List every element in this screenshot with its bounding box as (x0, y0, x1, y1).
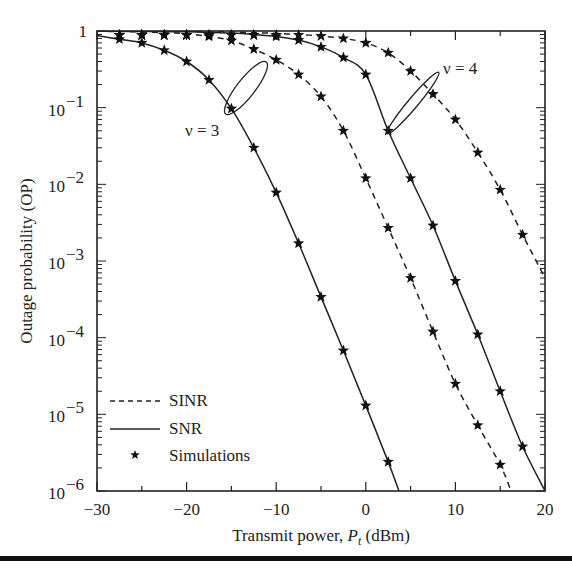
star-marker-icon (248, 43, 259, 54)
star-marker-icon (450, 114, 461, 125)
y-tick-label: 10 (48, 101, 65, 120)
star-marker-icon (495, 184, 506, 195)
y-tick-label-exponent: −2 (66, 168, 84, 187)
star-marker-icon (271, 54, 282, 65)
star-marker-icon (472, 419, 483, 430)
page-bottom-rule (0, 556, 572, 561)
outage-probability-chart: −30−20−1001020110−110−210−310−410−510−6 … (0, 0, 572, 575)
curve-dashed-1 (97, 31, 511, 491)
star-marker-icon (360, 37, 371, 48)
star-marker-icon (495, 385, 506, 396)
star-marker-icon (360, 172, 371, 183)
star-marker-icon (472, 329, 483, 340)
y-tick-label: 10 (48, 407, 65, 426)
star-marker-icon (338, 345, 349, 356)
legend-star-icon (130, 450, 140, 459)
star-marker-icon (360, 400, 371, 411)
star-marker-icon (450, 378, 461, 389)
x-tick-label: −10 (263, 500, 290, 519)
star-marker-icon (427, 220, 438, 231)
star-marker-icon (271, 187, 282, 198)
star-marker-icon (338, 125, 349, 136)
legend-label: SINR (169, 391, 208, 410)
star-marker-icon (517, 441, 528, 452)
star-marker-icon (405, 272, 416, 283)
star-marker-icon (293, 237, 304, 248)
y-tick-label-exponent: −5 (66, 398, 84, 417)
y-tick-label-exponent: −1 (66, 92, 84, 111)
star-marker-icon (405, 172, 416, 183)
star-marker-icon (495, 459, 506, 470)
y-tick-label-exponent: −6 (66, 475, 84, 494)
nu3-ellipse (219, 56, 274, 119)
star-marker-icon (383, 456, 394, 467)
y-tick-label: 10 (48, 177, 65, 196)
star-marker-icon (517, 229, 528, 240)
star-marker-icon (427, 326, 438, 337)
x-axis-label: Transmit power, Pt (dBm) (232, 526, 410, 548)
y-tick-label: 10 (48, 254, 65, 273)
star-marker-icon (136, 37, 147, 48)
star-marker-icon (159, 44, 170, 55)
x-tick-label: −20 (173, 500, 200, 519)
y-tick-label: 10 (48, 484, 65, 503)
star-marker-icon (338, 32, 349, 43)
star-marker-icon (315, 41, 326, 52)
star-marker-icon (315, 291, 326, 302)
x-tick-label: −30 (84, 500, 111, 519)
star-marker-icon (450, 275, 461, 286)
y-tick-label: 10 (48, 331, 65, 350)
annotations: ν = 3ν = 4 (185, 56, 478, 140)
axis-tick-labels: −30−20−1001020110−110−210−310−410−510−6 (48, 22, 554, 519)
star-marker-icon (293, 69, 304, 80)
annotation-nu4: ν = 4 (443, 59, 478, 78)
legend-label: SNR (169, 419, 203, 438)
annotation-nu3: ν = 3 (185, 121, 219, 140)
curve-solid-0 (97, 36, 399, 491)
legend: SINRSNRSimulations (110, 391, 250, 465)
x-tick-label: 20 (537, 500, 554, 519)
star-marker-icon (338, 52, 349, 63)
star-marker-icon (383, 222, 394, 233)
legend-label: Simulations (169, 446, 250, 465)
nu4-ellipse (383, 69, 442, 137)
star-marker-icon (405, 65, 416, 76)
star-marker-icon (248, 142, 259, 153)
x-tick-label: 0 (362, 500, 371, 519)
y-tick-label-exponent: −4 (66, 322, 85, 341)
star-marker-icon (472, 147, 483, 158)
y-axis-label: Outage probability (OP) (17, 178, 36, 343)
y-tick-label-exponent: −3 (66, 245, 84, 264)
x-tick-label: 10 (447, 500, 464, 519)
y-tick-label: 1 (79, 22, 88, 41)
